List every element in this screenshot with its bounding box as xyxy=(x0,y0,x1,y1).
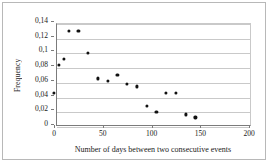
x-tick-label: 100 xyxy=(146,130,157,138)
x-axis-title: Number of days between two consecutive e… xyxy=(43,145,263,154)
figure-frame: Frequency 00,020,040,060,080,10,120,14 0… xyxy=(2,2,266,160)
gridline xyxy=(57,112,250,113)
chart-screenshot: Frequency 00,020,040,060,080,10,120,14 0… xyxy=(0,0,270,164)
gridline xyxy=(57,83,250,84)
x-tick-label: 150 xyxy=(195,130,206,138)
y-tick-mark xyxy=(51,21,54,22)
y-tick-mark xyxy=(51,36,54,37)
y-tick-mark xyxy=(51,65,54,66)
y-tick-mark xyxy=(51,109,54,110)
y-tick-label: 0,04 xyxy=(35,91,48,99)
y-tick-mark xyxy=(51,95,54,96)
y-tick-mark xyxy=(51,50,54,51)
gridline xyxy=(57,39,250,40)
plot-area xyxy=(56,23,251,126)
y-tick-mark xyxy=(51,80,54,81)
x-tick-label: 200 xyxy=(243,130,254,138)
x-tick-mark xyxy=(152,125,153,128)
x-tick-mark xyxy=(200,125,201,128)
y-axis-title: Frequency xyxy=(11,31,23,119)
y-tick-label: 0,1 xyxy=(39,46,48,54)
gridline xyxy=(57,98,250,99)
x-tick-label: 50 xyxy=(99,130,107,138)
x-tick-mark xyxy=(54,125,55,128)
gridline xyxy=(57,24,250,25)
gridline xyxy=(57,68,250,69)
y-tick-label: 0 xyxy=(44,120,48,128)
y-tick-label: 0,12 xyxy=(35,32,48,40)
x-tick-label: 0 xyxy=(52,130,56,138)
y-tick-label: 0,02 xyxy=(35,105,48,113)
y-tick-label: 0,14 xyxy=(35,17,48,25)
y-tick-label: 0,06 xyxy=(35,76,48,84)
x-tick-mark xyxy=(249,125,250,128)
x-tick-mark xyxy=(103,125,104,128)
y-tick-label: 0,08 xyxy=(35,61,48,69)
gridline xyxy=(57,127,250,128)
